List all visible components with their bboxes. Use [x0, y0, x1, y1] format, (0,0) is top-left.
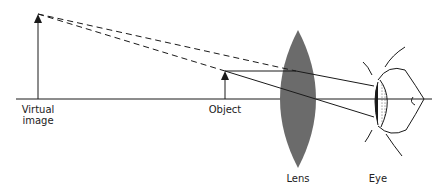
lens-shape [280, 30, 316, 168]
lens-label: Lens [286, 173, 309, 184]
eye-icon [363, 47, 424, 156]
virtual-ray-bottom [38, 14, 225, 71]
virtual-image-label: Virtual [22, 104, 55, 115]
object-label: Object [209, 104, 242, 115]
eye-label: Eye [369, 173, 387, 184]
virtual-image-label: image [22, 115, 53, 126]
virtual-ray-top [38, 14, 296, 71]
magnifier-diagram: Virtual image Object Lens Eye [0, 0, 444, 192]
